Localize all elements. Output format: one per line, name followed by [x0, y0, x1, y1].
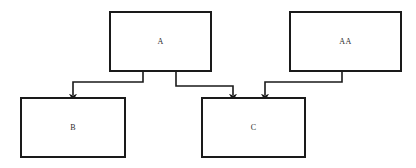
node-a[interactable]: A [109, 11, 212, 72]
edge-group [73, 72, 342, 95]
edge-aa-to-c [265, 72, 342, 95]
node-c-label: C [251, 124, 257, 132]
node-b[interactable]: B [20, 97, 126, 158]
edge-a-to-c [176, 72, 233, 95]
edge-a-to-b [73, 72, 143, 95]
node-aa-label: AA [339, 38, 351, 46]
diagram-canvas: A AA B C [0, 0, 416, 168]
node-c[interactable]: C [201, 97, 306, 158]
node-b-label: B [70, 124, 76, 132]
node-aa[interactable]: AA [289, 11, 402, 72]
node-a-label: A [157, 38, 163, 46]
